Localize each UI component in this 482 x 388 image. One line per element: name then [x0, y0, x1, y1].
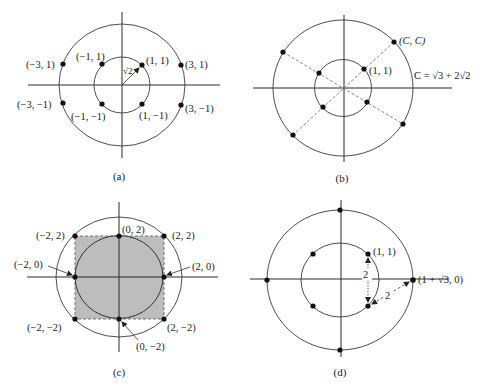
point [161, 316, 166, 321]
point-label: (2, 2) [172, 230, 195, 242]
panel-a: √2 (−3, 1) (−1, 1) (1, 1) (3, 1) (−3, −1… [17, 12, 220, 183]
constellation-diagrams: √2 (−3, 1) (−1, 1) (1, 1) (3, 1) (−3, −1… [0, 0, 482, 388]
point [72, 274, 77, 279]
panel-b: (C, C) (1, 1) C = √3 + 2√2 (b) [253, 15, 471, 185]
caption: (c) [113, 366, 126, 379]
point-label: (1, 1) [146, 55, 169, 67]
point-label: (−3, −1) [17, 99, 52, 111]
point [280, 49, 285, 54]
point [264, 277, 269, 282]
caption: (b) [336, 172, 349, 185]
point-label: (3, 1) [185, 59, 208, 71]
point [364, 99, 369, 104]
distance-label: 2 [385, 290, 390, 301]
point-label: (1, 1) [373, 246, 396, 258]
distance-label: 2 [363, 269, 368, 280]
point [391, 39, 396, 44]
point [72, 233, 77, 238]
point-label: (1, −1) [139, 110, 168, 122]
point [337, 347, 342, 352]
point-label: (2, 0) [192, 261, 215, 273]
point [139, 101, 144, 106]
caption: (d) [334, 366, 347, 379]
point [410, 277, 416, 283]
caption: (a) [113, 170, 126, 183]
point [99, 101, 104, 106]
radius-label: √2 [123, 66, 132, 76]
point [178, 102, 183, 107]
panel-d: 2 2 (1, 1) (1 + √3, 0) (d) [250, 200, 463, 379]
equation-label: C = √3 + 2√2 [414, 70, 471, 81]
point [365, 251, 370, 256]
point-label: (1, 1) [369, 65, 392, 77]
point [365, 303, 370, 308]
point-label: (3, −1) [185, 103, 214, 115]
point [310, 251, 315, 256]
point [316, 70, 321, 75]
point-label: (1 + √3, 0) [418, 274, 463, 286]
point-label: (C, C) [399, 35, 426, 47]
point [178, 62, 183, 67]
point [161, 274, 166, 279]
point [116, 233, 121, 238]
point-label: (2, −2) [167, 322, 196, 334]
point [320, 104, 325, 109]
point [290, 132, 295, 137]
point-label: (−2, 0) [14, 259, 43, 271]
point [361, 66, 366, 71]
point [337, 207, 342, 212]
point [60, 100, 65, 105]
label-arrow [48, 266, 72, 275]
point-label: (−3, 1) [26, 59, 55, 71]
panel-c: (−2, 2) (0, 2) (2, 2) (−2, 0) (2, 0) (−2… [14, 202, 218, 379]
point-label: (0, −2) [136, 341, 165, 353]
point [139, 62, 144, 67]
point [161, 233, 166, 238]
point [72, 316, 77, 321]
point [310, 303, 315, 308]
point [99, 61, 104, 66]
outer-circle [267, 210, 413, 350]
point-label: (−2, 2) [36, 230, 65, 242]
point [116, 316, 121, 321]
point-label: (−1, −1) [71, 111, 106, 123]
label-arrow [122, 322, 138, 340]
label-arrow [167, 267, 190, 275]
point-label: (0, 2) [122, 224, 145, 236]
point-label: (−2, −2) [27, 322, 62, 334]
point [400, 121, 405, 126]
point [60, 61, 65, 66]
point-label: (−1, 1) [76, 51, 105, 63]
